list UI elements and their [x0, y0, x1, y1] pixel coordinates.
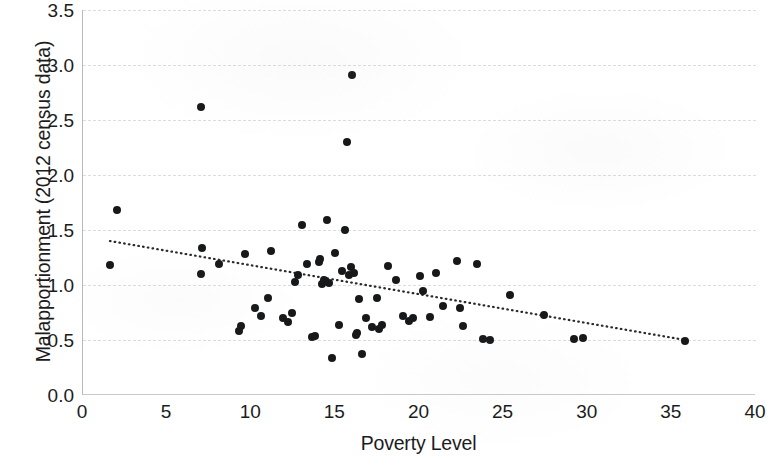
trendline-path: [110, 241, 685, 340]
x-tick-label: 35: [641, 401, 701, 423]
data-point: [439, 302, 447, 310]
y-tick-label: 1.5: [16, 221, 74, 240]
data-point: [459, 322, 467, 330]
data-point: [197, 270, 205, 278]
scatter-chart: Malapportionment (2012 census data) 0.00…: [0, 0, 779, 467]
data-point: [316, 255, 324, 263]
x-tick-label: 5: [136, 401, 196, 423]
data-point: [409, 314, 417, 322]
x-tick-label: 30: [557, 401, 617, 423]
data-point: [392, 276, 400, 284]
y-tick-label: 2.0: [16, 166, 74, 185]
y-tick-label: 2.5: [16, 111, 74, 130]
data-point: [335, 321, 343, 329]
data-point: [311, 332, 319, 340]
data-point: [241, 250, 249, 258]
x-tick-label: 25: [473, 401, 533, 423]
data-point: [323, 216, 331, 224]
y-axis-tick-labels: 0.00.51.01.52.02.53.03.5: [8, 0, 74, 395]
data-point: [113, 206, 121, 214]
data-point: [416, 272, 424, 280]
x-tick-label: 15: [304, 401, 364, 423]
data-point: [426, 313, 434, 321]
data-point: [298, 221, 306, 229]
data-point: [473, 260, 481, 268]
data-point: [362, 314, 370, 322]
data-point: [579, 334, 587, 342]
data-point: [453, 257, 461, 265]
data-point: [350, 269, 358, 277]
data-point: [540, 311, 548, 319]
data-point: [325, 279, 333, 287]
data-point: [251, 304, 259, 312]
x-tick-label: 20: [389, 401, 449, 423]
data-point: [419, 287, 427, 295]
x-axis-title: Poverty Level: [82, 432, 755, 455]
y-tick-label: 3.5: [16, 1, 74, 20]
x-tick-label: 10: [220, 401, 280, 423]
data-point: [384, 262, 392, 270]
trendline: [83, 10, 756, 395]
y-tick-label: 1.0: [16, 276, 74, 295]
data-point: [303, 260, 311, 268]
data-point: [456, 304, 464, 312]
data-point: [237, 322, 245, 330]
x-tick-label: 0: [52, 401, 112, 423]
data-point: [197, 103, 205, 111]
plot-area: [82, 10, 755, 395]
data-point: [288, 309, 296, 317]
x-tick-label: 40: [725, 401, 779, 423]
y-tick-label: 0.5: [16, 331, 74, 350]
y-tick-label: 3.0: [16, 56, 74, 75]
data-point: [328, 354, 336, 362]
